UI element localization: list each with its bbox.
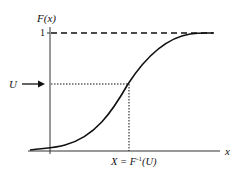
cdf-diagram: F(x) 1 U x X = F-1(U)	[0, 0, 242, 171]
y-tick-one-label: 1	[40, 27, 45, 38]
y-axis-label: F(x)	[36, 12, 56, 25]
u-label: U	[9, 78, 18, 90]
cdf-curve	[30, 33, 213, 150]
inverse-formula: X = F-1(U)	[110, 155, 157, 168]
x-axis-label: x	[224, 145, 230, 157]
u-arrow-icon	[38, 81, 45, 88]
